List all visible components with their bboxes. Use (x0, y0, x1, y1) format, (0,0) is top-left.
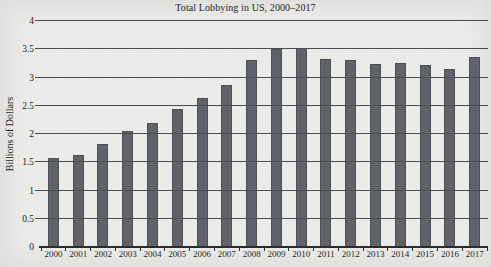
bar-2015 (420, 65, 431, 247)
gridline-3.5 (41, 48, 488, 49)
x-tick-label-2000: 2000 (41, 249, 66, 260)
y-tick-1 (35, 190, 41, 191)
x-tick-label-2007: 2007 (214, 249, 239, 260)
x-tick-label-2004: 2004 (140, 249, 165, 260)
bar-2005 (172, 109, 183, 247)
x-tick-label-2015: 2015 (413, 249, 438, 260)
bar-2012 (345, 60, 356, 247)
y-tick-2 (35, 133, 41, 134)
x-tick-label-2003: 2003 (115, 249, 140, 260)
bar-2008 (246, 60, 257, 247)
y-tick-label-3: 3 (0, 72, 34, 84)
bar-2007 (221, 85, 232, 247)
x-tick-label-2005: 2005 (165, 249, 190, 260)
bar-cell-2003 (115, 21, 140, 247)
x-tick-label-2011: 2011 (314, 249, 339, 260)
y-tick-3.5 (35, 48, 41, 49)
y-tick-3 (35, 77, 41, 78)
y-axis-tick-labels: 43.532.521.510.50 (0, 21, 34, 247)
gridline-4 (41, 20, 488, 21)
gridline-1 (41, 190, 488, 191)
x-tick-label-2014: 2014 (388, 249, 413, 260)
y-tick-label-0: 0 (0, 241, 34, 253)
gridline-2 (41, 133, 488, 134)
gridline-0.5 (41, 218, 488, 219)
bar-cell-2001 (66, 21, 91, 247)
y-tick-label-1: 1 (0, 185, 34, 197)
bar-cell-2004 (140, 21, 165, 247)
bar-cell-2010 (289, 21, 314, 247)
bar-2016 (444, 69, 455, 247)
bar-cell-2007 (214, 21, 239, 247)
bars-container (41, 21, 487, 247)
bar-2014 (395, 63, 406, 247)
bar-cell-2013 (363, 21, 388, 247)
bar-2006 (197, 98, 208, 247)
x-tick-label-2008: 2008 (239, 249, 264, 260)
gridline-2.5 (41, 105, 488, 106)
bar-2013 (370, 64, 381, 247)
bar-2011 (320, 59, 331, 247)
y-tick-4 (35, 20, 41, 21)
bar-cell-2017 (462, 21, 487, 247)
bar-cell-2000 (41, 21, 66, 247)
x-tick-label-2002: 2002 (91, 249, 116, 260)
bar-cell-2016 (438, 21, 463, 247)
bar-2004 (147, 123, 158, 247)
y-tick-label-3.5: 3.5 (0, 43, 34, 55)
bar-cell-2005 (165, 21, 190, 247)
gridline-1.5 (41, 161, 488, 162)
bar-cell-2011 (314, 21, 339, 247)
bar-cell-2008 (239, 21, 264, 247)
y-tick-label-2: 2 (0, 128, 34, 140)
y-tick-label-1.5: 1.5 (0, 156, 34, 168)
x-tick-label-2012: 2012 (338, 249, 363, 260)
bar-cell-2014 (388, 21, 413, 247)
bar-2002 (97, 144, 108, 247)
x-axis-tick-labels: 2000200120022003200420052006200720082009… (41, 249, 487, 260)
y-tick-label-2.5: 2.5 (0, 100, 34, 112)
x-tick-label-2009: 2009 (264, 249, 289, 260)
y-tick-label-0.5: 0.5 (0, 213, 34, 225)
y-tick-label-4: 4 (0, 15, 34, 27)
y-tick-0.5 (35, 218, 41, 219)
bar-cell-2006 (190, 21, 215, 247)
y-tick-2.5 (35, 105, 41, 106)
plot-area (41, 21, 487, 247)
x-tick-label-2010: 2010 (289, 249, 314, 260)
x-tick-label-2017: 2017 (462, 249, 487, 260)
gridline-3 (41, 77, 488, 78)
x-tick-label-2016: 2016 (438, 249, 463, 260)
x-tick-label-2006: 2006 (190, 249, 215, 260)
chart-title: Total Lobbying in US, 2000–2017 (0, 2, 491, 13)
bar-2001 (73, 155, 84, 247)
bar-cell-2012 (338, 21, 363, 247)
bar-cell-2015 (413, 21, 438, 247)
bar-cell-2002 (91, 21, 116, 247)
bar-2000 (48, 158, 59, 247)
x-tick-label-2001: 2001 (66, 249, 91, 260)
bar-cell-2009 (264, 21, 289, 247)
lobbying-bar-chart-figure: Total Lobbying in US, 2000–2017 Billions… (0, 0, 491, 267)
x-tick-label-2013: 2013 (363, 249, 388, 260)
y-tick-1.5 (35, 161, 41, 162)
